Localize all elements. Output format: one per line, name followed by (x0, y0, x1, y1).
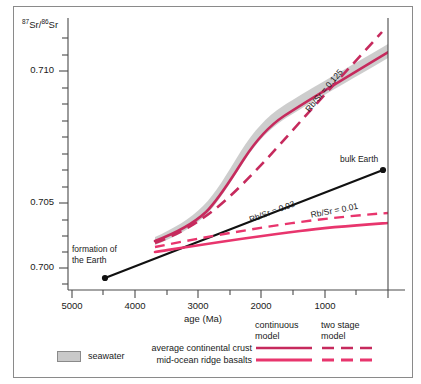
y-axis-title-sr: Sr (49, 19, 59, 30)
legend-two-stage-model-line1: two stage (321, 320, 360, 331)
x-axis-title: age (Ma) (173, 314, 233, 325)
x-tick-label-1000: 1000 (300, 301, 350, 312)
annotation-formation-of-earth-line2: the Earth (72, 256, 107, 266)
legend-seawater-swatch (57, 351, 81, 362)
x-tick-label-3000: 3000 (173, 301, 223, 312)
legend-two-stage-model-line2: model (321, 331, 346, 342)
sr-isotope-evolution-figure: 87Sr/86Sr 0.710 0.705 0.700 5000 4000 30… (0, 0, 421, 384)
annotation-formation-of-earth-line1: formation of (72, 245, 117, 255)
legend-continental-crust-label: average continental crust (137, 343, 252, 353)
y-axis-title: 87Sr/86Sr (22, 18, 58, 31)
x-tick-label-5000: 5000 (47, 301, 97, 312)
y-axis-title-sup86: 86 (41, 18, 48, 25)
legend-continuous-model-line2: model (255, 331, 280, 342)
y-tick-label-0705: 0.705 (12, 197, 54, 208)
legend-continuous-model-line1: continuous (255, 320, 299, 331)
x-axis-ticks (72, 290, 388, 298)
legend-sample-lines (256, 348, 378, 360)
y-axis-ticks (59, 38, 68, 284)
y-tick-label-0710: 0.710 (12, 65, 54, 76)
x-tick-label-4000: 4000 (110, 301, 160, 312)
bulk-earth-line (102, 167, 386, 281)
y-tick-label-0700: 0.700 (12, 262, 54, 273)
annotation-bulk-earth: bulk Earth (340, 155, 378, 165)
legend-morb-label: mid-ocean ridge basalts (137, 355, 252, 365)
x-tick-label-2000: 2000 (236, 301, 286, 312)
legend-seawater-label: seawater (88, 351, 125, 361)
y-axis-title-sr-slash: Sr/ (29, 19, 41, 30)
